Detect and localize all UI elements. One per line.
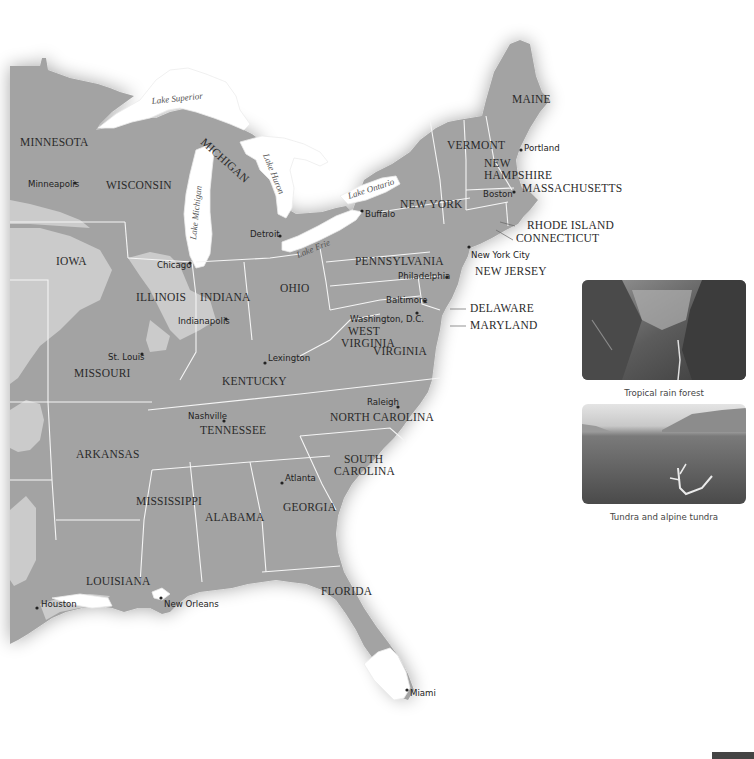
city-label-minneapolis: Minneapolis xyxy=(28,179,80,189)
city-label-new-orleans: New Orleans xyxy=(164,599,219,609)
florida-everglades xyxy=(364,648,410,700)
city-label-detroit: Detroit xyxy=(250,229,280,239)
state-label-virginia: VIRGINIA xyxy=(373,345,427,357)
city-label-buffalo: Buffalo xyxy=(365,209,395,219)
city-dot-boston xyxy=(512,190,515,193)
city-label-new-york-city: New York City xyxy=(471,250,530,260)
photo-caption: Tundra and alpine tundra xyxy=(582,512,746,522)
state-label-iowa: IOWA xyxy=(56,255,87,267)
state-label-new-york: NEW YORK xyxy=(400,198,463,210)
city-label-washington-dc: Washington, D.C. xyxy=(350,314,424,324)
city-dot-atlanta xyxy=(280,481,283,484)
state-label-connecticut: CONNECTICUT xyxy=(516,232,599,244)
state-label-new-jersey: NEW JERSEY xyxy=(475,265,547,277)
city-dot-new-york-city xyxy=(467,245,470,248)
state-label-alabama: ALABAMA xyxy=(205,511,265,523)
city-dot-new-orleans xyxy=(159,596,162,599)
state-label-ohio: OHIO xyxy=(280,282,310,294)
state-label-maine: MAINE xyxy=(512,93,551,105)
city-dot-portland xyxy=(519,148,522,151)
state-label-mississippi: MISSISSIPPI xyxy=(136,495,202,507)
state-label-north-carolina: NORTH CAROLINA xyxy=(330,411,435,423)
photo-card-rain-forest: Tropical rain forest xyxy=(582,280,746,398)
state-label-minnesota: MINNESOTA xyxy=(20,136,89,148)
state-label-indiana: INDIANA xyxy=(200,291,251,303)
city-label-miami: Miami xyxy=(410,688,436,698)
city-dot-buffalo xyxy=(360,209,363,212)
state-label-tennessee: TENNESSEE xyxy=(200,424,266,436)
state-label-south-carolina: SOUTHCAROLINA xyxy=(334,453,396,477)
state-label-rhode-island: RHODE ISLAND xyxy=(527,219,614,231)
state-label-pennsylvania: PENNSYLVANIA xyxy=(355,255,444,267)
state-label-maryland: MARYLAND xyxy=(470,319,537,331)
state-label-massachusetts: MASSACHUSETTS xyxy=(522,182,622,194)
city-label-indianapolis: Indianapolis xyxy=(178,316,230,326)
city-label-baltimore: Baltimore xyxy=(386,295,428,305)
city-label-houston: Houston xyxy=(41,599,77,609)
state-label-georgia: GEORGIA xyxy=(283,501,337,513)
state-label-arkansas: ARKANSAS xyxy=(76,448,140,460)
state-label-wisconsin: WISCONSIN xyxy=(106,179,172,191)
city-dot-miami xyxy=(405,688,408,691)
state-label-delaware: DELAWARE xyxy=(470,302,534,314)
city-label-nashville: Nashville xyxy=(188,411,227,421)
city-label-atlanta: Atlanta xyxy=(285,473,316,483)
city-label-raleigh: Raleigh xyxy=(367,397,399,407)
photo-card-tundra: Tundra and alpine tundra xyxy=(582,404,746,522)
city-label-portland: Portland xyxy=(524,143,560,153)
city-label-st-louis: St. Louis xyxy=(108,352,145,362)
city-dot-lexington xyxy=(263,361,266,364)
state-label-florida: FLORIDA xyxy=(321,585,373,597)
city-label-boston: Boston xyxy=(483,189,513,199)
state-label-new-hampshire: NEWHAMPSHIRE xyxy=(484,157,552,181)
photo-caption: Tropical rain forest xyxy=(582,388,746,398)
state-label-louisiana: LOUISIANA xyxy=(86,575,151,587)
tundra-photo xyxy=(582,404,746,504)
city-label-lexington: Lexington xyxy=(268,353,310,363)
state-label-kentucky: KENTUCKY xyxy=(222,375,287,387)
page-corner-tab xyxy=(712,752,754,759)
state-label-vermont: VERMONT xyxy=(447,139,505,151)
city-label-chicago: Chicago xyxy=(157,260,192,270)
city-dot-houston xyxy=(35,606,38,609)
city-label-philadelphia: Philadelphia xyxy=(398,271,450,281)
state-label-missouri: MISSOURI xyxy=(74,367,131,379)
state-label-illinois: ILLINOIS xyxy=(136,291,186,303)
rain-forest-photo xyxy=(582,280,746,380)
